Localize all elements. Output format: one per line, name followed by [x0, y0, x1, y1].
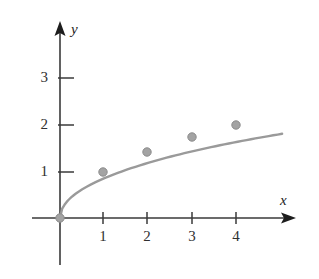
y-axis-label: y [71, 22, 78, 37]
data-point-marker [99, 168, 107, 176]
y-tick-label-3: 3 [28, 70, 48, 85]
data-point-marker [188, 133, 196, 141]
sqrt-curve [60, 134, 282, 218]
x-tick-label-2: 2 [137, 229, 157, 244]
x-tick-label-1: 1 [93, 229, 113, 244]
data-point-marker [232, 121, 240, 129]
plot-canvas [0, 0, 319, 279]
x-tick-label-4: 4 [226, 229, 246, 244]
y-tick-label-1: 1 [28, 164, 48, 179]
y-tick-label-2: 2 [28, 117, 48, 132]
square-root-function-plot: 1 2 3 4 1 2 3 x y [0, 0, 319, 279]
data-point-marker [56, 214, 64, 222]
x-axis-label: x [280, 193, 287, 208]
x-tick-label-3: 3 [182, 229, 202, 244]
data-point-marker [143, 148, 151, 156]
